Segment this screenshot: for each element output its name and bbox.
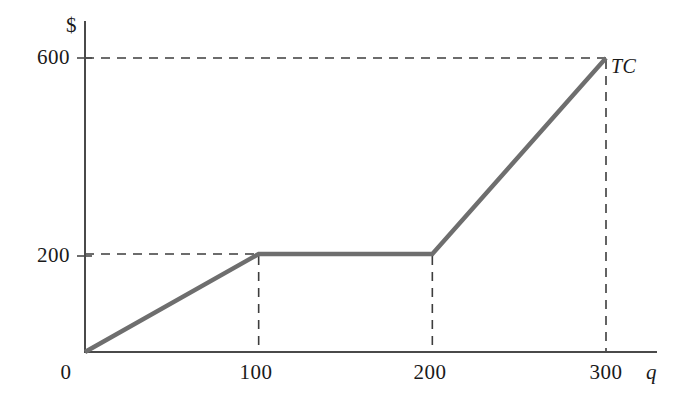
total-cost-curve-label: TC	[611, 56, 636, 76]
total-cost-curve	[85, 58, 606, 352]
x-tick-label-0: 0	[56, 362, 76, 383]
x-tick-label-200: 200	[400, 362, 460, 383]
y-tick-label-200: 200	[26, 245, 70, 266]
chart-canvas	[0, 0, 694, 402]
x-tick-label-300: 300	[576, 362, 636, 383]
y-tick-label-600: 600	[26, 47, 70, 68]
total-cost-chart-figure: $ 600 200 0 100 200 300 q TC	[0, 0, 694, 402]
x-tick-label-100: 100	[226, 362, 286, 383]
x-axis-title: q	[646, 362, 657, 383]
y-axis-title: $	[66, 15, 77, 36]
